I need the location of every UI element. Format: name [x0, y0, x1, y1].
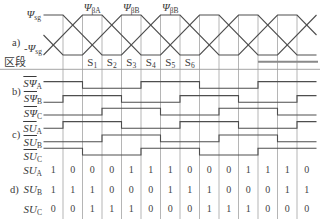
- table-cell: 1: [70, 184, 75, 196]
- table-cell: 0: [129, 184, 134, 196]
- table-cell: 1: [226, 203, 231, 215]
- waveform-canvas: [0, 0, 320, 221]
- negative-flux-level-label: -Ψsg: [24, 42, 42, 55]
- table-cell: 1: [168, 184, 173, 196]
- voltage-switch-signal-c-label-symbol: SU: [24, 150, 37, 162]
- table-cell: 0: [51, 203, 56, 215]
- table-cell: 0: [285, 203, 290, 215]
- section-label-1-subscript: 1: [93, 61, 97, 70]
- table-cell: 1: [246, 164, 251, 176]
- voltage-switch-signal-c-label: SUC: [24, 150, 42, 163]
- section-label-3: S3: [126, 56, 136, 69]
- table-cell: 0: [304, 203, 309, 215]
- section-label-5: S5: [165, 56, 175, 69]
- flux-switch-signal-c-label-symbol: SΨ: [24, 107, 37, 119]
- table-cell: 1: [148, 164, 153, 176]
- negative-flux-subscript: sg: [35, 47, 42, 56]
- table-cell: 1: [285, 184, 290, 196]
- peak-label-2-symbol: Ψ: [123, 1, 131, 13]
- voltage-switch-signal-a-label-subscript: A: [37, 127, 42, 136]
- table-cell: 1: [90, 184, 95, 196]
- flux-switch-signal-a-label: SΨA: [23, 77, 42, 90]
- flux-switch-signal-b-wave: [44, 96, 317, 103]
- section-label-3-subscript: 3: [132, 61, 136, 70]
- table-row-label-c-subscript: C: [37, 208, 42, 217]
- section-label-2-subscript: 2: [113, 61, 117, 70]
- table-cell: 0: [109, 184, 114, 196]
- panel-a-label: a): [12, 36, 20, 49]
- table-cell: 1: [187, 184, 192, 196]
- voltage-switch-signal-a-label: SUA: [23, 122, 42, 135]
- flux-switch-signal-b-label-symbol: SΨ: [24, 92, 37, 104]
- table-cell: 0: [70, 203, 75, 215]
- table-row-label-b-subscript: B: [37, 188, 42, 197]
- table-cell: 1: [129, 164, 134, 176]
- table-cell: 0: [187, 164, 192, 176]
- section-row-label: 区段: [4, 56, 26, 69]
- peak-label-2: ΨβB: [123, 1, 140, 14]
- table-cell: 0: [246, 184, 251, 196]
- peak-label-1-subscript: βA: [92, 6, 101, 15]
- table-cell: 0: [265, 203, 270, 215]
- section-label-1: S1: [87, 56, 97, 69]
- table-cell: 1: [90, 203, 95, 215]
- table-row-label-b: SUB: [24, 183, 42, 196]
- table-cell: 0: [265, 184, 270, 196]
- table-cell: 0: [90, 164, 95, 176]
- flux-switch-signal-c-label: SΨC: [24, 107, 42, 120]
- table-cell: 1: [285, 164, 290, 176]
- peak-label-3-subscript: βB: [170, 6, 179, 15]
- peak-label-1-symbol: Ψ: [84, 1, 92, 13]
- voltage-switch-signal-b-label-subscript: B: [37, 141, 42, 150]
- section-label-5-subscript: 5: [171, 61, 175, 70]
- voltage-switch-signal-b-label: SUB: [24, 136, 42, 149]
- positive-flux-subscript: sg: [34, 13, 41, 22]
- table-cell: 1: [246, 203, 251, 215]
- table-cell: 1: [168, 164, 173, 176]
- peak-label-1: ΨβA: [84, 1, 101, 14]
- table-cell: 1: [207, 203, 212, 215]
- table-row-label-a: SUA: [23, 164, 42, 177]
- voltage-switch-signal-a-label-symbol: SU: [23, 122, 36, 134]
- peak-label-3-symbol: Ψ: [162, 1, 170, 13]
- section-label-6-subscript: 6: [191, 61, 195, 70]
- positive-flux-level-label: Ψsg: [27, 8, 41, 21]
- peak-label-3: ΨβB: [162, 1, 179, 14]
- table-cell: 1: [129, 203, 134, 215]
- table-cell: 1: [265, 164, 270, 176]
- table-cell: 1: [51, 184, 56, 196]
- table-row-label-a-symbol: SU: [23, 164, 36, 176]
- table-row-label-c-symbol: SU: [24, 203, 37, 215]
- section-label-4-subscript: 4: [152, 61, 156, 70]
- table-cell: 1: [207, 184, 212, 196]
- table-cell: 1: [304, 184, 309, 196]
- flux-switch-signal-c-label-subscript: C: [37, 112, 42, 121]
- table-cell: 0: [148, 184, 153, 196]
- flux-switch-signal-a-label-subscript: A: [37, 82, 42, 91]
- table-row-label-a-subscript: A: [37, 169, 42, 178]
- section-label-2: S2: [107, 56, 117, 69]
- table-cell: 1: [109, 203, 114, 215]
- table-cell: 0: [168, 203, 173, 215]
- table-cell: 0: [70, 164, 75, 176]
- panel-b-label: b): [12, 85, 21, 98]
- flux-switch-signal-b-label-subscript: B: [37, 97, 42, 106]
- section-label-4: S4: [146, 56, 156, 69]
- peak-label-2-subscript: βB: [131, 6, 140, 15]
- flux-switch-signal-a-label-symbol: SΨ: [23, 77, 36, 89]
- table-cell: 0: [148, 203, 153, 215]
- table-cell: 0: [109, 164, 114, 176]
- table-cell: 1: [51, 164, 56, 176]
- table-cell: 0: [304, 164, 309, 176]
- table-cell: 0: [187, 203, 192, 215]
- voltage-switch-signal-b-label-symbol: SU: [24, 136, 37, 148]
- panel-c-label: c): [12, 128, 20, 141]
- switching-sequence-diagram: Ψsg a) -Ψsg 区段 b) c) d) ΨβAΨβBΨβBS1S2S3S…: [0, 0, 320, 221]
- voltage-switch-signal-a-wave: [44, 122, 317, 129]
- table-row-label-b-symbol: SU: [24, 183, 37, 195]
- table-cell: 0: [226, 164, 231, 176]
- table-cell: 0: [207, 164, 212, 176]
- panel-d-label: d): [10, 183, 19, 196]
- table-cell: 0: [226, 184, 231, 196]
- section-label-6: S6: [185, 56, 195, 69]
